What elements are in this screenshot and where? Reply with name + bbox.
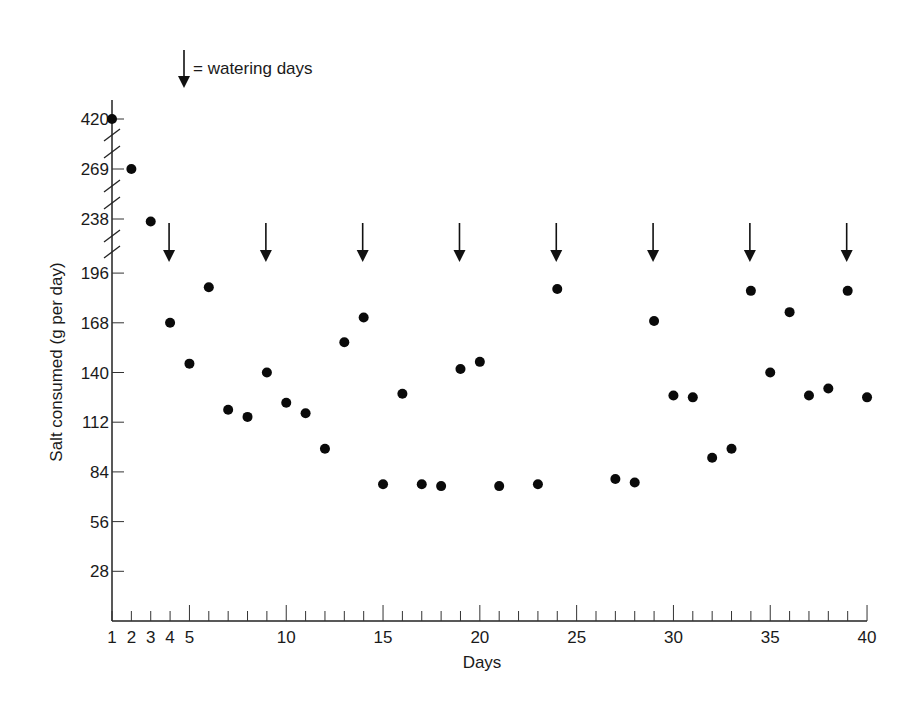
- x-tick-label: 20: [470, 628, 489, 647]
- y-axis: 285684112140168196238269420: [81, 100, 124, 621]
- data-point: [727, 444, 737, 454]
- data-point: [533, 479, 543, 489]
- data-point: [455, 364, 465, 374]
- x-tick-label: 4: [165, 628, 174, 647]
- data-point: [223, 405, 233, 415]
- data-point: [378, 479, 388, 489]
- data-point: [204, 282, 214, 292]
- data-point: [765, 368, 775, 378]
- legend: = watering days: [178, 50, 313, 88]
- y-tick-label: 196: [81, 264, 109, 283]
- down-arrow-icon: [647, 223, 659, 262]
- x-axis: 1234510152025303540: [107, 605, 876, 647]
- y-tick-label: 238: [81, 210, 109, 229]
- down-arrow-icon: [163, 223, 175, 262]
- x-tick-label: 1: [107, 628, 116, 647]
- data-point: [688, 392, 698, 402]
- x-tick-label: 5: [185, 628, 194, 647]
- x-tick-label: 30: [664, 628, 683, 647]
- down-arrow-icon: [550, 223, 562, 262]
- x-tick-label: 40: [858, 628, 877, 647]
- data-point: [862, 392, 872, 402]
- data-point: [339, 337, 349, 347]
- y-tick-label: 56: [90, 513, 109, 532]
- data-point: [165, 318, 175, 328]
- data-point: [707, 453, 717, 463]
- data-points: [107, 114, 872, 491]
- y-tick-label: 140: [81, 364, 109, 383]
- data-point: [610, 474, 620, 484]
- data-point: [668, 391, 678, 401]
- y-tick-label: 269: [81, 160, 109, 179]
- x-tick-label: 25: [567, 628, 586, 647]
- x-axis-title: Days: [463, 653, 502, 672]
- down-arrow-icon: [841, 223, 853, 262]
- data-point: [146, 217, 156, 227]
- data-point: [649, 316, 659, 326]
- x-tick-label: 15: [374, 628, 393, 647]
- data-point: [475, 357, 485, 367]
- y-tick-label: 84: [90, 463, 109, 482]
- y-axis-title: Salt consumed (g per day): [47, 262, 66, 461]
- data-point: [785, 307, 795, 317]
- data-point: [804, 391, 814, 401]
- data-point: [746, 286, 756, 296]
- data-point: [397, 389, 407, 399]
- legend-label: = watering days: [193, 59, 313, 78]
- data-point: [281, 398, 291, 408]
- data-point: [494, 481, 504, 491]
- data-point: [126, 164, 136, 174]
- data-point: [436, 481, 446, 491]
- down-arrow-icon: [357, 223, 369, 262]
- data-point: [552, 284, 562, 294]
- data-point: [823, 383, 833, 393]
- x-tick-label: 3: [146, 628, 155, 647]
- y-tick-label: 28: [90, 562, 109, 581]
- data-point: [320, 444, 330, 454]
- data-point: [359, 312, 369, 322]
- down-arrow-icon: [260, 223, 272, 262]
- y-tick-label: 420: [81, 110, 109, 129]
- data-point: [243, 412, 253, 422]
- data-point: [184, 359, 194, 369]
- down-arrow-icon: [178, 50, 190, 88]
- x-tick-label: 35: [761, 628, 780, 647]
- data-point: [107, 114, 117, 124]
- x-tick-label: 2: [127, 628, 136, 647]
- y-tick-label: 168: [81, 314, 109, 333]
- y-tick-label: 112: [82, 413, 109, 432]
- data-point: [630, 478, 640, 488]
- salt-consumption-chart: = watering days 285684112140168196238269…: [0, 0, 919, 709]
- data-point: [417, 479, 427, 489]
- down-arrow-icon: [453, 223, 465, 262]
- data-point: [843, 286, 853, 296]
- x-tick-label: 10: [277, 628, 296, 647]
- data-point: [262, 368, 272, 378]
- watering-day-arrows: [163, 223, 853, 262]
- down-arrow-icon: [744, 223, 756, 262]
- data-point: [301, 408, 311, 418]
